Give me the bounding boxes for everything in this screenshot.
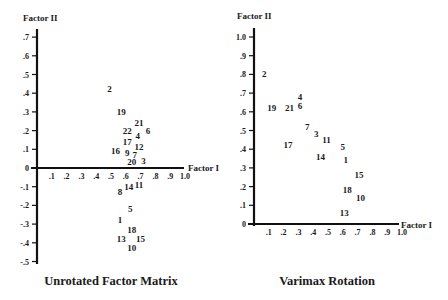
y-tick-label: .1 [240,201,246,210]
y-tick-label: 1.0 [236,33,246,42]
x-tick-label: .5 [325,228,331,237]
y-tick-label: .5 [240,127,246,136]
data-point-label: 10 [127,243,137,253]
data-point-label: 15 [355,170,365,180]
data-point-label: 8 [118,187,123,197]
y-tick-label: .3 [240,164,246,173]
axes [31,29,184,264]
data-point-label: 7 [305,122,310,132]
tick-labels: .7.6.5.4.3.2.10-.1-.2-.3-.4-.5.1.2.3.4.5… [20,33,190,266]
x-tick-label: .4 [93,172,99,181]
x-tick-label: .1 [49,172,55,181]
y-tick-label: .3 [23,108,29,117]
factor-plots-figure: Factor II Factor I Unrotated Factor Matr… [0,0,448,300]
data-point-label: 18 [343,185,353,195]
data-point-label: 1 [118,215,123,225]
data-point-label: 11 [322,135,331,145]
unrotated-factor-chart: Factor II Factor I Unrotated Factor Matr… [20,13,219,288]
y-tick-label: .8 [240,70,246,79]
x-tick-label: 1.0 [180,172,190,181]
x-tick-label: .9 [167,172,173,181]
y-axis-label: Factor II [237,11,272,21]
data-point-label: 21 [135,118,145,128]
y-tick-label: .9 [240,52,246,61]
data-point-label: 21 [285,103,295,113]
data-point-label: 5 [128,204,133,214]
data-point-label: 3 [141,156,146,166]
data-point-label: 13 [340,208,350,218]
data-point-label: 6 [298,101,303,111]
y-tick-label: .6 [240,108,246,117]
data-point-label: 13 [117,234,127,244]
x-tick-label: .7 [355,228,361,237]
data-point-label: 17 [284,140,294,150]
data-point-label: 14 [316,152,326,162]
y-tick-label: .2 [23,127,29,136]
data-point-label: 19 [117,107,127,117]
y-tick-label: -.2 [20,201,29,210]
axes [248,28,399,226]
data-point-label: 20 [127,157,137,167]
y-axis-label: Factor II [23,13,58,23]
y-tick-label: .2 [240,183,246,192]
x-tick-label: 1.0 [397,228,407,237]
x-tick-label: .1 [266,228,272,237]
x-tick-label: .8 [369,228,375,237]
data-point-label: 2 [107,84,112,94]
x-tick-label: .5 [108,172,114,181]
data-point-label: 1 [344,155,349,165]
y-tick-label: .7 [240,89,246,98]
x-tick-label: .2 [64,172,70,181]
data-point-label: 19 [267,103,277,113]
x-axis-label: Factor I [188,163,220,173]
y-tick-label: .4 [23,89,29,98]
data-point-label: 11 [135,180,144,190]
data-point-label: 6 [146,126,151,136]
data-point-label: 22 [123,126,133,136]
y-tick-label: .7 [23,33,29,42]
varimax-rotation-chart: Factor II Factor I Varimax Rotation 1.0.… [236,11,433,288]
y-tick-label: -.1 [20,183,29,192]
x-tick-label: .4 [310,228,316,237]
y-tick-label: .1 [23,145,29,154]
y-tick-label: .6 [23,52,29,61]
x-tick-label: .3 [295,228,301,237]
chart-title: Unrotated Factor Matrix [44,274,178,288]
x-tick-label: .3 [78,172,84,181]
y-tick-label: 0 [242,220,246,229]
data-point-label: 3 [314,129,319,139]
x-tick-label: .6 [123,172,129,181]
y-tick-label: -.5 [20,258,29,267]
data-point-label: 4 [135,131,140,141]
x-tick-label: .8 [152,172,158,181]
data-point-label: 14 [124,182,134,192]
x-tick-label: .9 [384,228,390,237]
y-tick-label: .4 [240,145,246,154]
data-point-label: 17 [123,137,133,147]
x-tick-label: .6 [340,228,346,237]
data-points: 2192146731117514115181013 [262,69,365,217]
x-tick-label: .2 [281,228,287,237]
data-point-label: 2 [262,69,267,79]
data-point-label: 15 [136,234,146,244]
data-point-label: 10 [356,193,366,203]
y-tick-label: 0 [25,164,29,173]
chart-title: Varimax Rotation [279,274,375,288]
y-tick-label: -.4 [20,239,29,248]
data-point-label: 5 [341,142,346,152]
data-point-label: 16 [111,146,121,156]
y-tick-label: -.3 [20,220,29,229]
y-tick-label: .5 [23,71,29,80]
